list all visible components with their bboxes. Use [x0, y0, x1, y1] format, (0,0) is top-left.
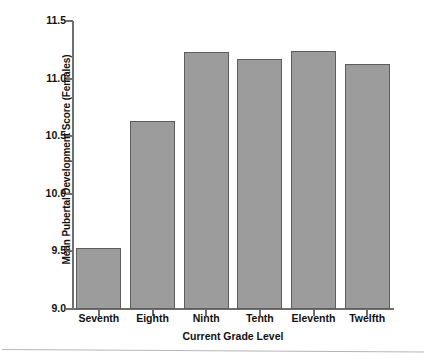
x-axis-title: Current Grade Level [72, 330, 394, 342]
bar-ninth [184, 52, 229, 309]
y-axis-tick-label: 11.5 [26, 14, 66, 26]
y-axis-tick-label: 9.0 [26, 302, 66, 314]
bar-twelfth [345, 64, 390, 309]
x-axis-tick-label-tenth: Tenth [233, 312, 287, 324]
plot-area [72, 21, 394, 309]
y-axis-tick-mark [66, 135, 73, 137]
x-axis-tick-label-eleventh: Eleventh [287, 312, 341, 324]
y-axis-tick-mark [66, 308, 73, 310]
y-axis-tick-mark [66, 250, 73, 252]
x-axis-tick-label-seventh: Seventh [72, 312, 126, 324]
y-axis-tick-label: 10.5 [26, 129, 66, 141]
bar-eighth [130, 121, 175, 309]
x-axis-tick-label-eighth: Eighth [126, 312, 180, 324]
y-axis-tick-label: 11.0 [26, 72, 66, 84]
bar-chart-figure: Mean Pubertal Development Score (Females… [0, 0, 426, 361]
y-axis-tick-mark [66, 78, 73, 80]
bar-seventh [76, 248, 121, 309]
y-axis-tick-mark [66, 193, 73, 195]
bar-tenth [237, 59, 282, 309]
x-axis-tick-label-twelfth: Twelfth [340, 312, 394, 324]
x-axis-tick-label-ninth: Ninth [179, 312, 233, 324]
y-axis-tick-label: 9.5 [26, 244, 66, 256]
bar-eleventh [291, 51, 336, 309]
y-axis-line [72, 21, 74, 309]
page-divider-rule [2, 349, 424, 353]
y-axis-tick-label: 10.0 [26, 187, 66, 199]
y-axis-tick-mark [66, 20, 73, 22]
y-axis-tick-labels: 9.09.510.010.511.011.5 [22, 21, 66, 309]
